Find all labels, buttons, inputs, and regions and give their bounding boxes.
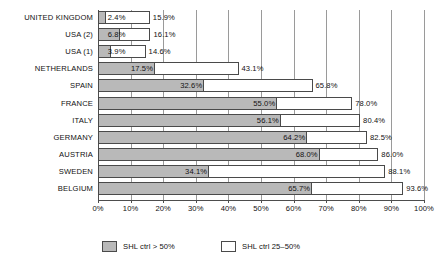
x-axis-tick [131,200,132,203]
x-axis-tick [261,200,262,203]
bar-row: 55.0%78.0% [98,97,424,110]
category-label: GERMANY [0,133,93,143]
bar-value-label-inner: 2.4% [100,11,126,24]
x-axis: 0%10%20%30%40%50%60%70%80%90%100% [98,200,424,214]
x-axis-tick [391,200,392,203]
category-label: SPAIN [0,81,93,91]
legend-label: SHL ctrl > 50% [123,241,175,252]
bar-value-label-outer: 80.4% [363,114,385,127]
bar-value-label-inner: 65.7% [284,182,310,195]
x-axis-tick [359,200,360,203]
bar-row: 56.1%80.4% [98,114,424,127]
bar-row: 6.8%16.1% [98,28,424,41]
bar-value-label-inner: 68.0% [292,148,318,161]
bar-value-label-inner: 64.2% [279,131,305,144]
bar-value-label-inner: 3.9% [100,45,126,58]
x-axis-tick-label: 60% [286,204,302,214]
bar-chart: UNITED KINGDOMUSA (2)USA (1)NETHERLANDSS… [0,0,444,270]
category-axis-labels: UNITED KINGDOMUSA (2)USA (1)NETHERLANDSS… [0,10,93,200]
bar-value-label-outer: 93.6% [406,182,428,195]
plot-area: 2.4%15.9%6.8%16.1%3.9%14.6%17.5%43.1%32.… [98,10,424,200]
category-label: USA (1) [0,47,93,57]
x-axis-tick [196,200,197,203]
legend-item: SHL ctrl 25–50% [221,241,300,252]
bar-value-label-outer: 14.6% [149,45,171,58]
category-label: FRANCE [0,99,93,109]
bar-row: 3.9%14.6% [98,45,424,58]
x-axis-tick [424,200,425,203]
bar-row: 2.4%15.9% [98,11,424,24]
category-label: USA (2) [0,30,93,40]
x-axis-tick-label: 30% [188,204,204,214]
bar-value-label-inner: 17.5% [127,62,153,75]
bar-value-label-outer: 65.8% [316,79,338,92]
category-label: NETHERLANDS [0,64,93,74]
bar-value-label-outer: 88.1% [388,165,410,178]
bar-row: 64.2%82.5% [98,131,424,144]
bar-row: 65.7%93.6% [98,182,424,195]
legend-label: SHL ctrl 25–50% [242,241,300,252]
chart-legend: SHL ctrl > 50%SHL ctrl 25–50% [98,238,424,254]
x-axis-tick [294,200,295,203]
x-axis-tick-label: 0% [92,204,103,214]
bar-value-label-outer: 15.9% [153,11,175,24]
bar-row: 17.5%43.1% [98,62,424,75]
x-axis-tick [326,200,327,203]
bar-row: 32.6%65.8% [98,79,424,92]
x-axis-tick-label: 100% [414,204,434,214]
bar-segment-inner [98,131,307,144]
bar-value-label-outer: 86.0% [381,148,403,161]
bar-value-label-inner: 32.6% [176,79,202,92]
x-axis-tick-label: 70% [318,204,334,214]
bar-value-label-outer: 82.5% [370,131,392,144]
x-axis-tick [98,200,99,203]
bar-value-label-inner: 34.1% [181,165,207,178]
x-axis-tick-label: 40% [221,204,237,214]
x-axis-tick-label: 20% [155,204,171,214]
gridline [424,10,425,200]
category-label: BELGIUM [0,184,93,194]
bar-value-label-inner: 56.1% [253,114,279,127]
legend-item: SHL ctrl > 50% [102,241,175,252]
x-axis-tick [163,200,164,203]
category-label: AUSTRIA [0,150,93,160]
bar-segment-inner [98,148,320,161]
x-axis-tick-label: 10% [123,204,139,214]
category-label: ITALY [0,116,93,126]
bar-row: 68.0%86.0% [98,148,424,161]
bar-segment-inner [98,182,312,195]
x-axis-tick-label: 50% [253,204,269,214]
x-axis-tick [228,200,229,203]
legend-swatch-icon [102,241,117,252]
bar-value-label-inner: 6.8% [100,28,126,41]
x-axis-tick-label: 80% [351,204,367,214]
legend-swatch-icon [221,241,236,252]
category-label: SWEDEN [0,167,93,177]
bar-value-label-outer: 43.1% [242,62,264,75]
x-axis-tick-label: 90% [384,204,400,214]
category-label: UNITED KINGDOM [0,13,93,23]
bar-value-label-outer: 16.1% [153,28,175,41]
bar-value-label-outer: 78.0% [355,97,377,110]
bar-value-label-inner: 55.0% [249,97,275,110]
bar-row: 34.1%88.1% [98,165,424,178]
